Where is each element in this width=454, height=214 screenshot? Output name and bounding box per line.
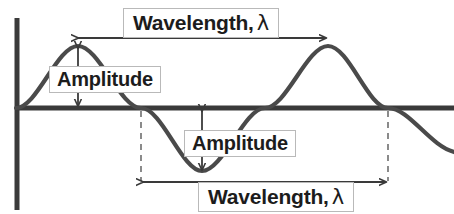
wavelength-bottom-label: Wavelength,λ — [198, 182, 354, 212]
amplitude-bottom-label: Amplitude — [184, 130, 296, 157]
wavelength-top-label-text: Wavelength, — [133, 11, 254, 35]
amplitude-top-label: Amplitude — [49, 66, 161, 93]
lambda-symbol-bottom: λ — [329, 185, 344, 209]
lambda-symbol-top: λ — [254, 11, 269, 35]
wavelength-top-label: Wavelength,λ — [123, 8, 279, 38]
amplitude-top-label-text: Amplitude — [57, 68, 153, 91]
wave-diagram: Wavelength,λ Amplitude Amplitude Wavelen… — [0, 0, 454, 214]
amplitude-bottom-label-text: Amplitude — [192, 132, 288, 155]
wavelength-bottom-label-text: Wavelength, — [208, 185, 329, 209]
